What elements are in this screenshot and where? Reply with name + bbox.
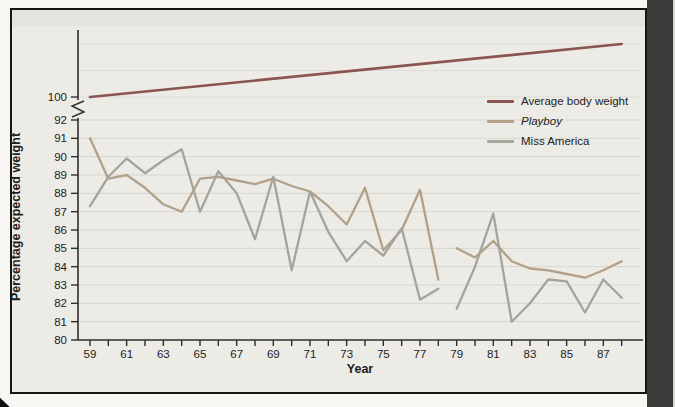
svg-text:65: 65 bbox=[194, 348, 207, 360]
svg-text:89: 89 bbox=[54, 169, 67, 181]
legend-line-swatch bbox=[487, 140, 514, 143]
textbook-figure-page: 8081828384858687888990919210059616365676… bbox=[0, 0, 675, 407]
legend: Average body weight Playboy Miss America bbox=[487, 91, 628, 151]
legend-label: Miss America bbox=[521, 135, 589, 147]
svg-text:67: 67 bbox=[230, 348, 243, 360]
svg-text:85: 85 bbox=[560, 348, 573, 360]
svg-text:92: 92 bbox=[54, 114, 67, 126]
legend-line-swatch bbox=[487, 100, 514, 103]
svg-text:61: 61 bbox=[120, 348, 133, 360]
svg-text:73: 73 bbox=[340, 348, 353, 360]
svg-text:81: 81 bbox=[54, 316, 67, 328]
svg-text:79: 79 bbox=[450, 348, 463, 360]
line-chart: 8081828384858687888990919210059616365676… bbox=[0, 0, 675, 407]
svg-text:87: 87 bbox=[597, 348, 610, 360]
svg-text:91: 91 bbox=[54, 132, 67, 144]
svg-text:63: 63 bbox=[157, 348, 170, 360]
svg-text:90: 90 bbox=[54, 151, 67, 163]
svg-text:71: 71 bbox=[304, 348, 317, 360]
svg-text:86: 86 bbox=[54, 224, 67, 236]
svg-text:100: 100 bbox=[48, 91, 67, 103]
svg-text:85: 85 bbox=[54, 242, 67, 254]
svg-text:88: 88 bbox=[54, 187, 67, 199]
legend-item-playboy: Playboy bbox=[487, 111, 628, 131]
y-axis-title: Percentage expected weight bbox=[9, 122, 23, 312]
legend-item-average-body-weight: Average body weight bbox=[487, 91, 628, 111]
svg-text:81: 81 bbox=[487, 348, 500, 360]
svg-text:77: 77 bbox=[414, 348, 427, 360]
svg-text:83: 83 bbox=[54, 279, 67, 291]
svg-text:84: 84 bbox=[54, 261, 67, 273]
svg-text:59: 59 bbox=[84, 348, 97, 360]
svg-text:83: 83 bbox=[524, 348, 537, 360]
svg-text:80: 80 bbox=[54, 334, 67, 346]
svg-text:82: 82 bbox=[54, 297, 67, 309]
legend-label: Average body weight bbox=[521, 95, 628, 107]
legend-line-swatch bbox=[487, 120, 514, 123]
svg-text:75: 75 bbox=[377, 348, 390, 360]
book-page-edge-bar bbox=[647, 0, 673, 407]
svg-text:87: 87 bbox=[54, 206, 67, 218]
x-axis-title: Year bbox=[280, 362, 440, 376]
svg-text:69: 69 bbox=[267, 348, 280, 360]
legend-label: Playboy bbox=[521, 115, 562, 127]
legend-item-miss-america: Miss America bbox=[487, 131, 628, 151]
